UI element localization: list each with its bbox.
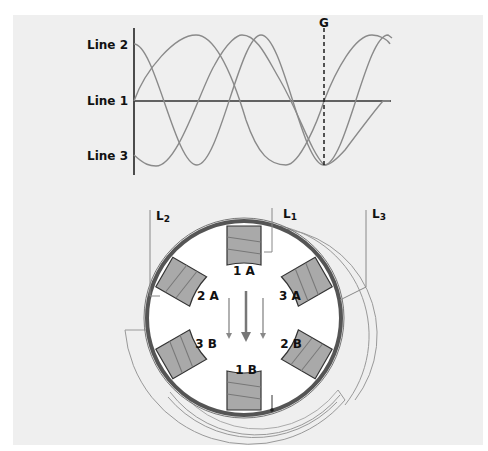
- pole-1a: [227, 226, 261, 265]
- line-1-wave: [134, 35, 390, 165]
- neutral-node: [270, 408, 274, 412]
- three-phase-motor-diagram: G Line 2 Line 1 Line 3: [0, 0, 488, 451]
- pole-label-2b: 2 B: [280, 337, 302, 351]
- pole-label-1a: 1 A: [233, 264, 256, 278]
- lead-label-l2: L2: [156, 209, 170, 224]
- pole-label-3a: 3 A: [279, 289, 302, 303]
- line-3-label: Line 3: [87, 149, 128, 163]
- pole-label-3b: 3 B: [195, 337, 217, 351]
- line-2-wave: [134, 35, 392, 165]
- lead-l3-wire: [340, 210, 366, 300]
- motor-stator: 1 A 2 A 3 A 3 B 2 B 1 B L2 L1 L3: [125, 207, 386, 444]
- line-1-label: Line 1: [87, 94, 128, 108]
- lead-label-l1: L1: [283, 207, 297, 222]
- g-marker-label: G: [319, 16, 329, 30]
- lead-label-l3: L3: [372, 207, 386, 222]
- line-2-label: Line 2: [87, 38, 128, 52]
- waveform-chart: G Line 2 Line 1 Line 3: [87, 16, 392, 175]
- pole-label-2a: 2 A: [197, 289, 220, 303]
- pole-label-1b: 1 B: [235, 363, 257, 377]
